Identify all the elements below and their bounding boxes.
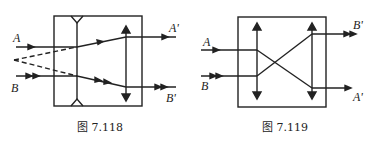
caption-fig-7-118: 图 7.118 <box>77 121 123 134</box>
label-b-prime: B' <box>353 18 363 32</box>
label-a-prime: A' <box>168 21 179 35</box>
ray-a <box>201 48 351 91</box>
label-b-prime: B' <box>166 91 176 105</box>
convex-lens-left-icon <box>253 23 261 99</box>
label-b: B <box>201 79 209 93</box>
ray-b <box>201 32 356 79</box>
optics-diagrams: A B A' B' 图 7.118 <box>0 0 374 146</box>
concave-lens-icon <box>71 16 83 106</box>
label-a: A <box>202 35 211 49</box>
figure-7-118 <box>14 16 176 106</box>
label-a-prime: A' <box>352 90 363 104</box>
label-b: B <box>11 81 19 95</box>
ray-b <box>16 74 176 90</box>
label-a: A <box>12 31 21 45</box>
ray-a <box>16 35 176 50</box>
virtual-rays <box>14 47 77 76</box>
figure-7-119 <box>201 17 356 107</box>
caption-fig-7-119: 图 7.119 <box>262 121 308 134</box>
